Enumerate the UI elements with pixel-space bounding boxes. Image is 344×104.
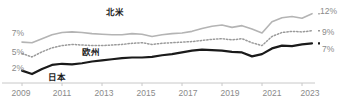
x-axis-tick-2017: 2017	[179, 88, 198, 98]
chart-plot-area	[0, 0, 344, 104]
x-axis-tick-2015: 2015	[137, 88, 156, 98]
series-label-japan: 日本	[48, 70, 66, 82]
x-axis-tick-2023: 2023	[301, 88, 320, 98]
series-label-europe: 欧州	[82, 45, 100, 57]
series-label-north-america: 北米	[106, 5, 124, 17]
x-axis-tick-2009: 2009	[12, 88, 31, 98]
x-axis-tick-2019: 2019	[221, 88, 240, 98]
y-axis-left-tick-2: 2%	[2, 63, 24, 73]
series-line-north-america	[22, 14, 312, 43]
y-axis-right-tick-2: 7%	[322, 44, 334, 54]
y-axis-left-tick-0: 7%	[2, 28, 24, 38]
x-axis-tick-2021: 2021	[263, 88, 282, 98]
x-axis-tick-2011: 2011	[53, 88, 71, 98]
x-axis-tick-2013: 2013	[95, 88, 114, 98]
y-axis-right-tick-1: 9%	[322, 27, 334, 37]
line-chart: 7% 5% 2% 12% 9% 7% 北米 欧州 日本 2009 2011 20…	[0, 0, 344, 104]
y-axis-left-tick-1: 5%	[2, 47, 24, 57]
y-axis-right-tick-0: 12%	[320, 6, 337, 16]
